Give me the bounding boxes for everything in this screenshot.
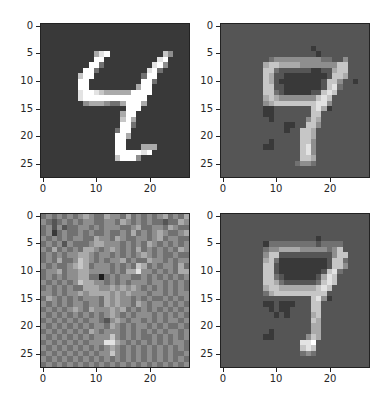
pixel <box>358 68 363 74</box>
pixel <box>311 307 316 313</box>
pixel <box>173 269 178 275</box>
pixel <box>168 356 173 362</box>
pixel <box>306 345 311 351</box>
pixel <box>290 296 295 302</box>
pixel <box>46 345 51 351</box>
xtick-label: 0 <box>213 374 233 384</box>
pixel <box>104 95 109 101</box>
xtick-label: 10 <box>266 184 286 194</box>
pixel <box>173 62 178 68</box>
pixel <box>343 122 348 128</box>
pixel <box>131 166 136 172</box>
pixel <box>184 144 189 150</box>
pixel <box>295 241 300 247</box>
pixel <box>364 161 369 167</box>
pixel <box>274 62 279 68</box>
pixel <box>104 68 109 74</box>
pixel <box>104 285 109 291</box>
pixel <box>78 280 83 286</box>
pixel <box>306 214 311 220</box>
pixel <box>253 46 258 52</box>
pixel <box>300 301 305 307</box>
pixel <box>136 307 141 313</box>
pixel <box>358 285 363 291</box>
pixel <box>120 62 125 68</box>
pixel <box>120 247 125 253</box>
pixel <box>258 301 263 307</box>
pixel <box>173 117 178 123</box>
pixel <box>152 29 157 35</box>
pixel <box>141 280 146 286</box>
pixel <box>147 356 152 362</box>
pixel <box>110 51 115 57</box>
pixel <box>147 307 152 313</box>
pixel <box>274 340 279 346</box>
pixel <box>152 280 157 286</box>
pixel <box>131 106 136 112</box>
pixel <box>62 269 67 275</box>
pixel <box>306 285 311 291</box>
pixel <box>57 285 62 291</box>
pixel <box>237 95 242 101</box>
pixel <box>290 247 295 253</box>
pixel <box>327 301 332 307</box>
pixel <box>52 241 57 247</box>
pixel <box>73 73 78 79</box>
pixel <box>364 323 369 329</box>
pixel <box>115 144 120 150</box>
ytick-mark <box>36 53 40 54</box>
pixel <box>242 95 247 101</box>
pixel <box>163 296 168 302</box>
pixel <box>284 106 289 112</box>
pixel <box>311 122 316 128</box>
pixel <box>52 230 57 236</box>
pixel <box>221 51 226 57</box>
pixel <box>321 340 326 346</box>
pixel <box>67 111 72 117</box>
pixel <box>131 139 136 145</box>
pixel <box>358 57 363 63</box>
pixel <box>163 329 168 335</box>
pixel <box>358 252 363 258</box>
pixel <box>274 73 279 79</box>
pixel <box>157 345 162 351</box>
pixel <box>263 307 268 313</box>
pixel <box>46 57 51 63</box>
pixel <box>89 29 94 35</box>
pixel <box>83 166 88 172</box>
pixel <box>110 46 115 52</box>
pixel <box>136 280 141 286</box>
pixel <box>253 351 258 357</box>
pixel <box>311 258 316 264</box>
ytick-mark <box>36 243 40 244</box>
pixel <box>232 351 237 357</box>
pixel <box>327 68 332 74</box>
pixel <box>184 95 189 101</box>
pixel <box>258 29 263 35</box>
pixel <box>73 362 78 367</box>
pixel <box>41 329 46 335</box>
pixel <box>343 258 348 264</box>
pixel <box>237 161 242 167</box>
pixel <box>274 258 279 264</box>
pixel <box>173 219 178 225</box>
pixel <box>141 274 146 280</box>
pixel <box>348 263 353 269</box>
pixel <box>300 117 305 123</box>
pixel <box>126 280 131 286</box>
pixel <box>168 117 173 123</box>
pixel <box>253 68 258 74</box>
pixel <box>57 155 62 161</box>
pixel <box>226 269 231 275</box>
pixel <box>284 40 289 46</box>
pixel <box>141 236 146 242</box>
pixel <box>284 362 289 367</box>
pixel <box>147 128 152 134</box>
pixel <box>173 101 178 107</box>
pixel <box>258 340 263 346</box>
pixel <box>300 296 305 302</box>
pixel <box>157 323 162 329</box>
pixel <box>62 356 67 362</box>
pixel <box>364 329 369 335</box>
pixel <box>46 40 51 46</box>
